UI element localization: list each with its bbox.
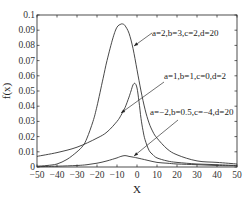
x-tick-label: 50 (232, 170, 242, 180)
y-tick-label: 0.09 (18, 25, 35, 35)
x-tick-label: 10 (152, 170, 162, 180)
y-tick-label: 0.1 (23, 10, 35, 20)
y-tick-label: 0.05 (18, 86, 35, 96)
x-tick-label: −20 (90, 170, 105, 180)
y-tick-label: 0.08 (18, 40, 35, 50)
y-tick-label: 0.01 (18, 147, 35, 157)
x-tick-label: 30 (192, 170, 202, 180)
x-tick-label: −10 (110, 170, 125, 180)
y-tick-label: 0.04 (18, 101, 35, 111)
x-tick-label: −40 (50, 170, 65, 180)
annotation-label: a=2,b=3,c=2,d=20 (152, 28, 219, 38)
y-tick-label: 0 (30, 162, 35, 172)
x-tick-label: 0 (135, 170, 140, 180)
y-tick-label: 0.06 (18, 71, 35, 81)
y-axis-label: f(x) (0, 82, 13, 99)
x-tick-label: 40 (212, 170, 222, 180)
annotation-label: a=1,b=1,c=0,d=2 (164, 71, 226, 81)
x-tick-label: 20 (172, 170, 182, 180)
x-axis-label: X (133, 183, 141, 195)
x-tick-label: −30 (70, 170, 85, 180)
y-tick-label: 0.07 (18, 56, 35, 66)
y-tick-label: 0.02 (18, 132, 35, 142)
annotation-label: a=−2,b=0.5,c=−4,d=20 (150, 107, 234, 117)
y-tick-label: 0.03 (18, 116, 35, 126)
line-chart: −50−40−30−20−1001020304050 00.010.020.03… (0, 0, 249, 199)
